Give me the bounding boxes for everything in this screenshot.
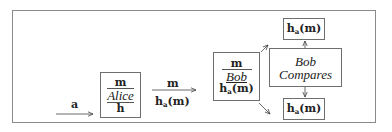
hash-bottom-arg: (m) bbox=[299, 102, 321, 115]
alice-name: Alice bbox=[107, 89, 134, 102]
alice-box: m Alice h bbox=[100, 72, 141, 118]
bob-box: m Bob ha(m) bbox=[213, 52, 260, 101]
alice-hash-function: h bbox=[117, 103, 125, 114]
hash-top-arg: (m) bbox=[299, 22, 321, 35]
alice-message: m bbox=[115, 77, 127, 88]
input-arrow-label: a bbox=[71, 98, 78, 111]
bob-to-bottom-arrow bbox=[259, 103, 270, 114]
transmit-message-label: m bbox=[167, 77, 179, 90]
hash-bottom-func: h bbox=[287, 102, 295, 115]
hash-top-func: h bbox=[287, 22, 295, 35]
transmit-hash-arg: (m) bbox=[168, 95, 190, 108]
bob-to-top-arrow bbox=[261, 45, 268, 52]
bob-message: m bbox=[231, 58, 243, 69]
bob-hash-func: h bbox=[219, 82, 227, 95]
compare-line-2: Compares bbox=[279, 68, 332, 81]
bob-hash-arg: (m) bbox=[232, 82, 254, 95]
hash-bottom-box: ha(m) bbox=[283, 98, 325, 120]
bob-compares-box: Bob Compares bbox=[269, 48, 342, 87]
hash-top-box: ha(m) bbox=[283, 18, 325, 40]
bob-hash: ha(m) bbox=[219, 83, 254, 95]
transmit-hash-label: ha(m) bbox=[155, 95, 190, 109]
transmit-hash-func: h bbox=[155, 95, 163, 108]
compare-line-1: Bob bbox=[295, 55, 316, 68]
